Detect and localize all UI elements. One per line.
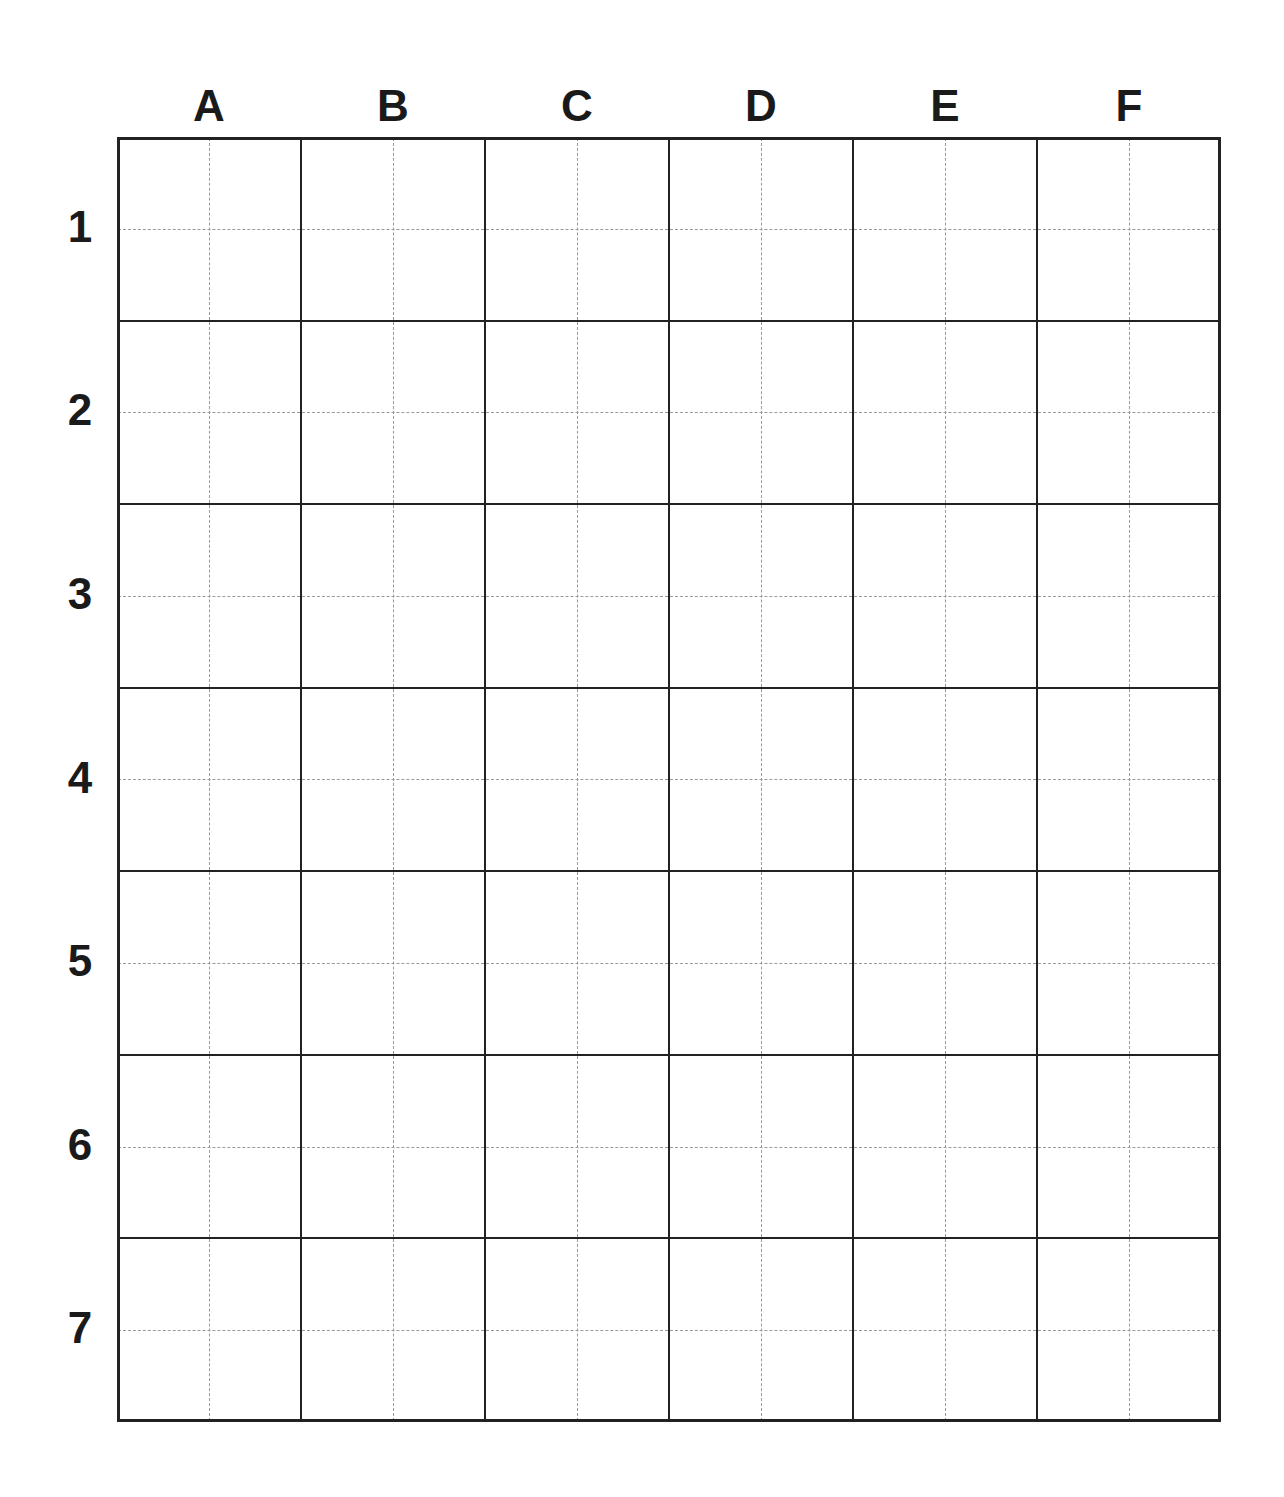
grid-cell-d1 (669, 137, 853, 321)
grid-cell-e6 (853, 1055, 1037, 1239)
row-label-7: 7 (58, 1304, 102, 1352)
grid-cell-f3 (1037, 504, 1221, 688)
vertical-guide-line (1129, 505, 1130, 687)
vertical-guide-line (577, 689, 578, 871)
vertical-guide-line (209, 322, 210, 504)
column-label-f: F (1037, 82, 1221, 130)
vertical-guide-line (761, 138, 762, 320)
column-label-e: E (853, 82, 1037, 130)
vertical-guide-line (393, 1239, 394, 1421)
grid-cell-c3 (485, 504, 669, 688)
vertical-guide-line (945, 872, 946, 1054)
grid-cell-d6 (669, 1055, 853, 1239)
grid-cell-c1 (485, 137, 669, 321)
vertical-guide-line (393, 138, 394, 320)
vertical-guide-line (393, 322, 394, 504)
grid-cell-e1 (853, 137, 1037, 321)
vertical-guide-line (945, 1056, 946, 1238)
vertical-guide-line (945, 1239, 946, 1421)
vertical-guide-line (209, 872, 210, 1054)
grid-cell-d4 (669, 688, 853, 872)
vertical-guide-line (209, 138, 210, 320)
grid-cell-b4 (301, 688, 485, 872)
vertical-guide-line (209, 1056, 210, 1238)
row-label-3: 3 (58, 570, 102, 618)
grid-cell-b1 (301, 137, 485, 321)
vertical-guide-line (577, 322, 578, 504)
grid-cell-f6 (1037, 1055, 1221, 1239)
grid-cell-b2 (301, 321, 485, 505)
grid-cell-d7 (669, 1238, 853, 1422)
row-label-1: 1 (58, 203, 102, 251)
vertical-guide-line (577, 1056, 578, 1238)
vertical-guide-line (209, 689, 210, 871)
grid-cell-b7 (301, 1238, 485, 1422)
grid-cell-f5 (1037, 871, 1221, 1055)
grid (117, 137, 1221, 1422)
vertical-guide-line (577, 138, 578, 320)
grid-cell-a4 (117, 688, 301, 872)
vertical-guide-line (1129, 138, 1130, 320)
vertical-guide-line (393, 505, 394, 687)
grid-cell-f4 (1037, 688, 1221, 872)
grid-cell-e5 (853, 871, 1037, 1055)
grid-cell-a6 (117, 1055, 301, 1239)
row-label-5: 5 (58, 937, 102, 985)
vertical-guide-line (577, 872, 578, 1054)
vertical-guide-line (945, 322, 946, 504)
column-label-b: B (301, 82, 485, 130)
grid-cell-f7 (1037, 1238, 1221, 1422)
vertical-guide-line (761, 1056, 762, 1238)
grid-cell-e7 (853, 1238, 1037, 1422)
grid-cell-a2 (117, 321, 301, 505)
vertical-guide-line (1129, 689, 1130, 871)
vertical-guide-line (945, 505, 946, 687)
row-label-6: 6 (58, 1121, 102, 1169)
vertical-guide-line (1129, 322, 1130, 504)
vertical-guide-line (577, 505, 578, 687)
vertical-guide-line (209, 1239, 210, 1421)
grid-cell-a7 (117, 1238, 301, 1422)
grid-cell-d3 (669, 504, 853, 688)
grid-cell-e4 (853, 688, 1037, 872)
grid-cell-b6 (301, 1055, 485, 1239)
column-label-c: C (485, 82, 669, 130)
row-label-2: 2 (58, 386, 102, 434)
vertical-guide-line (1129, 1239, 1130, 1421)
column-label-a: A (117, 82, 301, 130)
grid-cell-a1 (117, 137, 301, 321)
grid-cell-f1 (1037, 137, 1221, 321)
row-label-4: 4 (58, 754, 102, 802)
vertical-guide-line (209, 505, 210, 687)
grid-cell-e3 (853, 504, 1037, 688)
grid-cell-d2 (669, 321, 853, 505)
grid-cell-f2 (1037, 321, 1221, 505)
vertical-guide-line (761, 1239, 762, 1421)
vertical-guide-line (761, 505, 762, 687)
grid-cell-c6 (485, 1055, 669, 1239)
grid-cell-e2 (853, 321, 1037, 505)
vertical-guide-line (577, 1239, 578, 1421)
grid-cell-d5 (669, 871, 853, 1055)
vertical-guide-line (945, 689, 946, 871)
grid-cell-a3 (117, 504, 301, 688)
grid-cell-b5 (301, 871, 485, 1055)
grid-cell-c5 (485, 871, 669, 1055)
grid-cell-a5 (117, 871, 301, 1055)
vertical-guide-line (393, 689, 394, 871)
grid-cell-c2 (485, 321, 669, 505)
vertical-guide-line (393, 1056, 394, 1238)
grid-cell-c4 (485, 688, 669, 872)
vertical-guide-line (1129, 872, 1130, 1054)
vertical-guide-line (945, 138, 946, 320)
grid-cell-c7 (485, 1238, 669, 1422)
grid-cell-b3 (301, 504, 485, 688)
vertical-guide-line (393, 872, 394, 1054)
vertical-guide-line (761, 322, 762, 504)
column-label-d: D (669, 82, 853, 130)
vertical-guide-line (1129, 1056, 1130, 1238)
vertical-guide-line (761, 872, 762, 1054)
vertical-guide-line (761, 689, 762, 871)
